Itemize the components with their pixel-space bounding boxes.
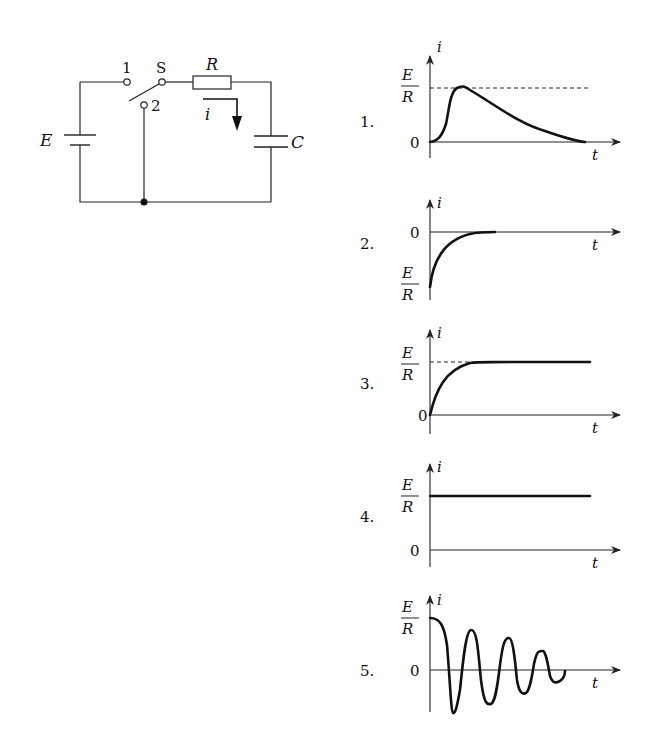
current-curve — [430, 87, 585, 142]
current-curve — [430, 232, 495, 287]
zero-label: 0 — [410, 134, 420, 152]
graph-number: 1. — [360, 113, 374, 131]
zero-label: 0 — [418, 407, 428, 425]
capacitor-icon — [254, 136, 288, 147]
graph-1: 1. i t E R 0 — [360, 38, 620, 164]
resistor-icon — [193, 76, 231, 89]
y-axis-label: i — [437, 591, 442, 609]
zero-label: 0 — [410, 224, 420, 242]
current-curve — [430, 618, 565, 713]
fraction-numerator: E — [401, 264, 413, 282]
y-axis-label: i — [437, 324, 442, 342]
graph-number: 2. — [360, 235, 374, 253]
capacitor-label: C — [291, 132, 304, 152]
terminal-1-icon — [124, 79, 130, 85]
fraction-numerator: E — [401, 476, 413, 494]
diagram-canvas: E 1 S 2 R C i 1. i t — [0, 0, 653, 744]
wire-bottom — [80, 145, 271, 202]
x-axis-label: t — [592, 674, 599, 692]
graph-5: 5. i t E R 0 — [360, 591, 620, 713]
fraction-numerator: E — [401, 598, 413, 616]
switch-pivot-icon — [159, 79, 165, 85]
fraction-denominator: R — [401, 286, 413, 304]
fraction-denominator: R — [401, 498, 413, 516]
resistor-label: R — [205, 55, 218, 74]
terminal-1-label: 1 — [122, 59, 132, 77]
graph-number: 5. — [360, 662, 374, 680]
x-axis-label: t — [592, 419, 599, 437]
source-label: E — [39, 130, 53, 150]
switch-label: S — [156, 59, 166, 77]
junction-dot-icon — [141, 199, 148, 206]
zero-label: 0 — [410, 662, 420, 680]
fraction-denominator: R — [401, 88, 413, 106]
y-axis-label: i — [437, 458, 442, 476]
circuit: E 1 S 2 R C i — [39, 55, 304, 206]
fraction-numerator: E — [401, 344, 413, 362]
graph-number: 4. — [360, 508, 374, 526]
x-axis-label: t — [592, 554, 599, 572]
fraction-numerator: E — [401, 66, 413, 84]
terminal-2-label: 2 — [151, 97, 161, 115]
y-axis-label: i — [437, 194, 442, 212]
graph-2: 2. i t 0 E R — [360, 194, 620, 304]
x-axis-label: t — [592, 146, 599, 164]
fraction-denominator: R — [401, 620, 413, 638]
terminal-2-icon — [141, 102, 147, 108]
graph-4: 4. i t E R 0 — [360, 458, 620, 572]
fraction-denominator: R — [401, 366, 413, 384]
current-label: i — [205, 105, 210, 124]
graph-number: 3. — [360, 375, 374, 393]
battery-icon — [64, 135, 96, 145]
zero-label: 0 — [410, 542, 420, 560]
current-curve — [430, 362, 590, 415]
y-axis-label: i — [437, 38, 442, 56]
x-axis-label: t — [592, 236, 599, 254]
graph-3: 3. i t E R 0 — [360, 324, 620, 437]
